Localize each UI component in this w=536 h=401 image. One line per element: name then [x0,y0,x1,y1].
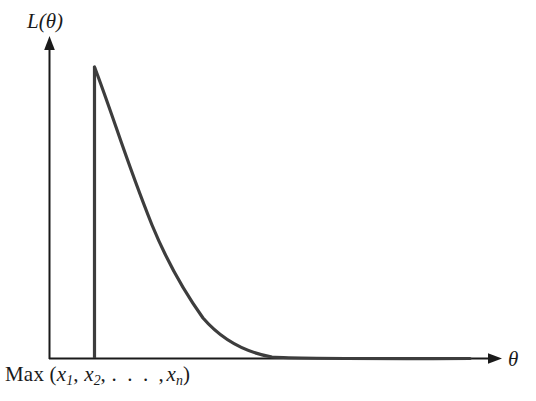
x-axis-arrowhead [488,353,502,364]
plot-canvas [0,0,536,401]
curve-decay [95,67,471,359]
tick-comma-2: , [101,362,112,386]
tick-comma-1: , [73,362,84,386]
tick-var-n: x [166,362,176,386]
tick-ellipsis: . . . , [112,362,167,386]
tick-suffix: ) [183,362,190,386]
y-axis-arrowhead [44,36,55,50]
likelihood-curve [95,67,471,359]
tick-prefix: Max ( [5,362,57,386]
tick-var-1: x [57,362,67,386]
y-axis [44,36,55,359]
tick-sub-n: n [176,373,183,388]
y-axis-label: L(θ) [27,9,63,34]
tick-var-2: x [84,362,94,386]
x-axis-tick-label: Max (x1, x2, . . . ,xn) [5,362,190,389]
tick-sub-2: 2 [94,373,101,388]
likelihood-function-figure: L(θ) θ Max (x1, x2, . . . ,xn) [0,0,536,401]
x-axis-label: θ [508,347,518,372]
